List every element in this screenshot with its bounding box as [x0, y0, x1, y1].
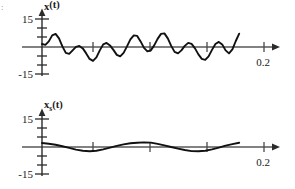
bottom-signal-label: xs(t) [44, 99, 63, 113]
bottom-x-label-end: 0.2 [256, 156, 270, 168]
top-plot-svg: 15 -15 0.2 x(t) [0, 0, 295, 95]
bottom-signal-label-rest: (t) [52, 99, 63, 111]
bottom-y-label-min: -15 [18, 168, 33, 180]
top-signal-label: x(t) [44, 0, 60, 12]
bottom-plot-svg: 15 -15 0.2 xs(t) [0, 95, 295, 189]
plot-panel-top: 15 -15 0.2 x(t) [0, 0, 295, 95]
bottom-x-axis-arrowhead [272, 143, 280, 150]
top-y-label-min: -15 [18, 68, 33, 80]
bottom-y-label-max: 15 [22, 113, 34, 125]
top-x-axis-arrowhead [272, 43, 280, 50]
plot-panel-bottom: 15 -15 0.2 xs(t) [0, 95, 295, 189]
top-x-label-end: 0.2 [256, 56, 270, 68]
top-signal-label-rest: (t) [49, 0, 60, 11]
figure-root: : 15 -15 0.2 [0, 0, 295, 189]
top-y-label-max: 15 [22, 13, 34, 25]
